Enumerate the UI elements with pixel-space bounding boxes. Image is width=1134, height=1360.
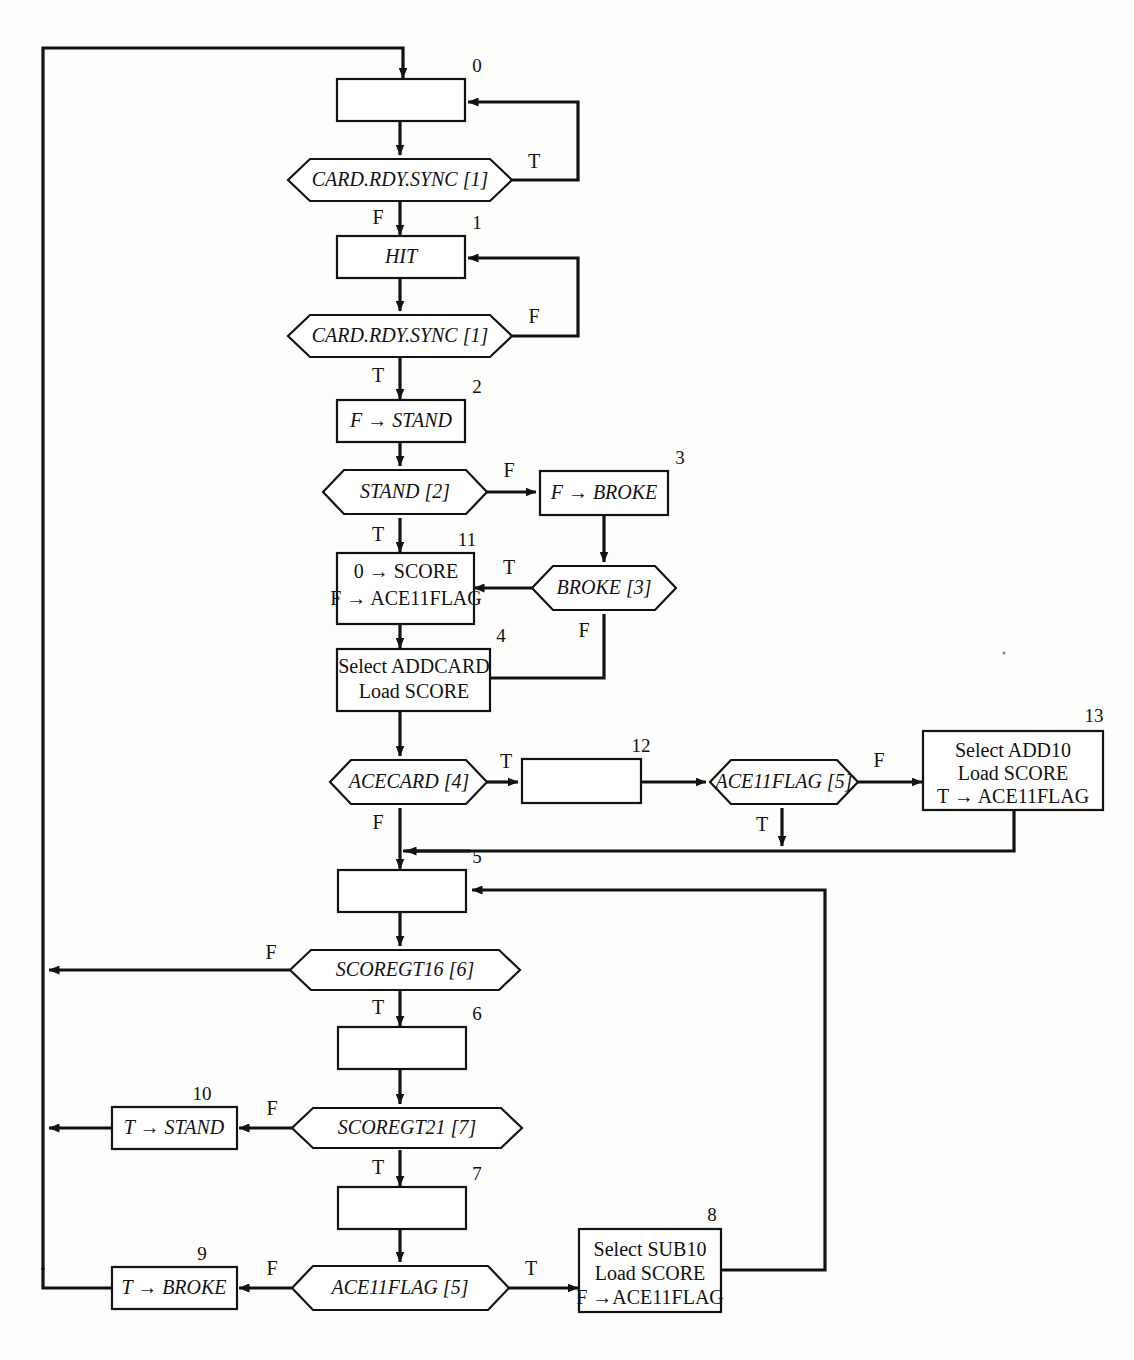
branch-label-ace11a-true: T <box>756 813 768 835</box>
node-state-8-line-3: F →ACE11FLAG <box>576 1286 724 1308</box>
node-state-12[interactable]: 12 <box>522 735 651 803</box>
node-state-12-number: 12 <box>632 735 651 756</box>
node-state-2[interactable]: F → STAND 2 <box>337 376 482 442</box>
node-state-4-line-2: Load SCORE <box>359 680 470 702</box>
branch-label-ace11a-false: F <box>873 749 884 771</box>
node-decision-ace11flag-a[interactable]: ACE11FLAG [5] <box>710 760 858 804</box>
node-state-3-label: F → BROKE <box>550 481 658 503</box>
node-state-5[interactable]: 5 <box>338 846 482 912</box>
branch-label-stand-true: T <box>372 523 384 545</box>
node-state-7-number: 7 <box>472 1163 482 1184</box>
node-decision-ace11flag-b-label: ACE11FLAG [5] <box>330 1276 469 1298</box>
branch-label-cardrdy2-true: T <box>372 364 384 386</box>
edge-s9-to-rail <box>43 1268 112 1288</box>
edge-s13-to-merge-bus <box>403 810 1014 851</box>
node-decision-cardrdysync-1b[interactable]: CARD.RDY.SYNC [1] <box>288 315 512 357</box>
node-state-5-number: 5 <box>472 846 482 867</box>
branch-label-broke-false: F <box>578 619 589 641</box>
node-state-13-line-3: T → ACE11FLAG <box>937 785 1089 807</box>
node-layer: 0 CARD.RDY.SYNC [1] HIT 1 CARD.RDY.SYNC … <box>112 55 1104 1312</box>
node-state-1-label: HIT <box>384 245 419 267</box>
flowchart-svg: 0 CARD.RDY.SYNC [1] HIT 1 CARD.RDY.SYNC … <box>0 0 1134 1360</box>
node-decision-acecard-label: ACECARD [4] <box>347 770 470 792</box>
node-decision-ace11flag-a-label: ACE11FLAG [5] <box>714 770 853 792</box>
node-state-0-number: 0 <box>472 55 482 76</box>
flowchart-canvas: 0 CARD.RDY.SYNC [1] HIT 1 CARD.RDY.SYNC … <box>0 0 1134 1360</box>
node-decision-scoregt21-label: SCOREGT21 [7] <box>338 1116 476 1138</box>
branch-label-cardrdy1-true: T <box>528 150 540 172</box>
node-state-11[interactable]: 0 → SCORE F → ACE11FLAG 11 <box>330 529 482 624</box>
node-state-10-number: 10 <box>193 1083 212 1104</box>
node-state-11-line-1: 0 → SCORE <box>354 560 458 582</box>
node-state-8-number: 8 <box>707 1204 717 1225</box>
branch-label-ace11b-true: T <box>525 1257 537 1279</box>
node-state-2-number: 2 <box>472 376 482 397</box>
edge-s8-to-s5 <box>472 890 825 1270</box>
node-state-7[interactable]: 7 <box>338 1163 482 1229</box>
node-state-3[interactable]: F → BROKE 3 <box>540 447 685 515</box>
branch-label-gt21-true: T <box>372 1156 384 1178</box>
node-state-10[interactable]: T → STAND 10 <box>112 1083 237 1149</box>
node-state-13-number: 13 <box>1085 705 1104 726</box>
node-state-4-number: 4 <box>496 625 506 646</box>
branch-label-gt16-true: T <box>372 996 384 1018</box>
branch-label-broke-true: T <box>503 556 515 578</box>
node-decision-cardrdysync-1b-label: CARD.RDY.SYNC [1] <box>312 324 489 346</box>
branch-label-acecard-false: F <box>372 811 383 833</box>
node-state-2-label: F → STAND <box>349 409 452 431</box>
node-state-0[interactable]: 0 <box>337 55 482 121</box>
node-state-9-label: T → BROKE <box>121 1276 226 1298</box>
node-state-1-hit[interactable]: HIT 1 <box>337 212 482 278</box>
node-decision-scoregt21[interactable]: SCOREGT21 [7] <box>292 1108 522 1148</box>
scan-artifact-dot <box>1002 651 1005 654</box>
branch-label-cardrdy2-false: F <box>528 305 539 327</box>
node-decision-ace11flag-b[interactable]: ACE11FLAG [5] <box>292 1266 509 1310</box>
node-decision-broke-label: BROKE [3] <box>557 576 652 598</box>
branch-label-gt16-false: F <box>265 941 276 963</box>
node-state-9[interactable]: T → BROKE 9 <box>112 1243 237 1309</box>
node-state-4-line-1: Select ADDCARD <box>338 655 490 677</box>
branch-label-gt21-false: F <box>266 1097 277 1119</box>
node-state-6-number: 6 <box>472 1003 482 1024</box>
node-state-8[interactable]: Select SUB10 Load SCORE F →ACE11FLAG 8 <box>576 1204 724 1312</box>
branch-label-cardrdy1-false: F <box>372 206 383 228</box>
connector-layer <box>43 48 1014 1288</box>
node-state-13-line-2: Load SCORE <box>958 762 1069 784</box>
branch-label-stand-false: F <box>503 459 514 481</box>
branch-label-ace11b-false: F <box>266 1257 277 1279</box>
node-state-11-number: 11 <box>458 529 476 550</box>
node-state-13[interactable]: Select ADD10 Load SCORE T → ACE11FLAG 13 <box>923 705 1104 810</box>
node-state-6[interactable]: 6 <box>338 1003 482 1069</box>
node-state-4[interactable]: Select ADDCARD Load SCORE 4 <box>337 625 506 711</box>
node-decision-scoregt16[interactable]: SCOREGT16 [6] <box>290 950 520 990</box>
node-state-1-number: 1 <box>472 212 482 233</box>
node-decision-stand[interactable]: STAND [2] <box>323 470 487 514</box>
node-decision-cardrdysync-1a[interactable]: CARD.RDY.SYNC [1] <box>288 159 512 201</box>
node-state-13-line-1: Select ADD10 <box>955 739 1071 761</box>
branch-label-acecard-true: T <box>500 750 512 772</box>
node-decision-acecard[interactable]: ACECARD [4] <box>330 760 487 804</box>
node-decision-stand-label: STAND [2] <box>360 480 450 502</box>
node-state-10-label: T → STAND <box>124 1116 225 1138</box>
node-state-3-number: 3 <box>675 447 685 468</box>
node-state-9-number: 9 <box>197 1243 207 1264</box>
node-state-8-line-1: Select SUB10 <box>594 1238 707 1260</box>
node-decision-broke[interactable]: BROKE [3] <box>532 566 676 610</box>
node-state-11-line-2: F → ACE11FLAG <box>330 587 482 609</box>
node-state-8-line-2: Load SCORE <box>595 1262 706 1284</box>
node-decision-cardrdysync-1a-label: CARD.RDY.SYNC [1] <box>312 168 489 190</box>
node-decision-scoregt16-label: SCOREGT16 [6] <box>336 958 474 980</box>
